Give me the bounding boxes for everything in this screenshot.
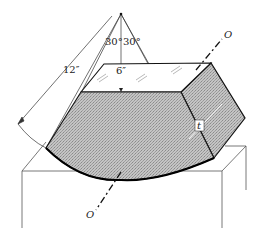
angle-right-label: 30°: [123, 36, 141, 47]
radius-label: 12″: [63, 64, 80, 75]
height-label: 6″: [116, 65, 126, 76]
axis-top-label: O: [224, 29, 232, 40]
apex-point: [120, 13, 123, 16]
angle-left-label: 30°: [105, 36, 123, 47]
axis-bottom-label: O: [86, 209, 94, 220]
diagram-canvas: 12″ 30° 30° 6″ t O O: [0, 0, 260, 232]
